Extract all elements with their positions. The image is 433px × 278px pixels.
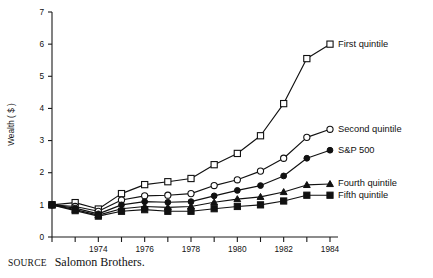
marker-second-quintile <box>327 126 333 132</box>
y-axis-title: Wealth ( $ ) <box>6 103 16 146</box>
marker-first-quintile <box>281 101 287 107</box>
marker-first-quintile <box>211 162 217 168</box>
marker-first-quintile <box>304 56 310 62</box>
x-tick-label: 1974 <box>89 244 108 252</box>
wealth-growth-line-chart: 01234567Wealth ( $ )19741976197819801982… <box>0 0 433 278</box>
marker-fifth-quintile <box>142 207 148 213</box>
legend-label-fourth-quintile: Fourth quintile <box>338 178 397 188</box>
marker-first-quintile <box>188 175 194 181</box>
marker-fifth-quintile <box>281 198 287 204</box>
x-tick-label: 1980 <box>228 244 247 252</box>
marker-second-quintile <box>281 155 287 161</box>
marker-second-quintile <box>234 177 240 183</box>
marker-first-quintile <box>118 191 124 197</box>
y-tick-label: 5 <box>39 71 44 81</box>
marker-second-quintile <box>142 193 148 199</box>
marker-fifth-quintile <box>118 208 124 214</box>
marker-fifth-quintile <box>304 192 310 198</box>
marker-second-quintile <box>211 182 217 188</box>
marker-first-quintile <box>142 182 148 188</box>
marker-fifth-quintile <box>95 213 101 219</box>
marker-fifth-quintile <box>72 208 78 214</box>
y-tick-label: 4 <box>39 103 44 113</box>
marker-s-p-500 <box>327 147 333 153</box>
marker-fifth-quintile <box>165 208 171 214</box>
y-tick-label: 1 <box>39 200 44 210</box>
marker-s-p-500 <box>304 155 310 161</box>
series-line-first-quintile <box>52 44 330 209</box>
x-tick-label: 1982 <box>274 244 293 252</box>
chart-plot-area: 01234567Wealth ( $ )19741976197819801982… <box>0 0 433 252</box>
marker-first-quintile <box>165 179 171 185</box>
x-tick-label: 1984 <box>321 244 340 252</box>
marker-s-p-500 <box>281 173 287 179</box>
x-tick-label: 1978 <box>182 244 201 252</box>
legend-label-second-quintile: Second quintile <box>338 124 402 134</box>
marker-first-quintile <box>327 41 333 47</box>
legend-label-first-quintile: First quintile <box>338 39 388 49</box>
marker-first-quintile <box>234 150 240 156</box>
marker-second-quintile <box>257 168 263 174</box>
y-tick-label: 3 <box>39 135 44 145</box>
marker-fifth-quintile <box>49 202 55 208</box>
marker-fifth-quintile <box>257 202 263 208</box>
x-tick-label: 1976 <box>135 244 154 252</box>
marker-second-quintile <box>165 192 171 198</box>
legend-label-s-p-500: S&P 500 <box>338 145 375 155</box>
source-note: SOURCESalomon Brothers. <box>8 255 145 270</box>
marker-fifth-quintile <box>188 208 194 214</box>
source-text: Salomon Brothers. <box>55 255 145 269</box>
y-tick-label: 0 <box>39 232 44 242</box>
marker-s-p-500 <box>258 183 264 189</box>
source-keyword: SOURCE <box>8 258 47 268</box>
marker-s-p-500 <box>234 187 240 193</box>
y-tick-label: 7 <box>39 7 44 17</box>
marker-first-quintile <box>257 133 263 139</box>
marker-second-quintile <box>304 134 310 140</box>
y-tick-label: 2 <box>39 167 44 177</box>
marker-fifth-quintile <box>234 203 240 209</box>
marker-second-quintile <box>188 191 194 197</box>
marker-fifth-quintile <box>211 206 217 212</box>
marker-fifth-quintile <box>327 192 333 198</box>
y-tick-label: 6 <box>39 39 44 49</box>
legend-label-fifth-quintile: Fifth quintile <box>338 190 388 200</box>
